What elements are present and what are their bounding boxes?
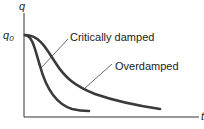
critical-leader-line [41,39,68,68]
over-leader-line [85,64,112,88]
overdamped-label: Overdamped [115,60,179,72]
damping-chart: q q0 t Critically damped Overdamped [0,0,204,129]
critically-damped-curve [25,35,89,111]
y-axis-label: q [19,0,26,12]
x-axis-label: t [201,110,204,122]
y-tick-q0: q0 [3,29,14,43]
overdamped-curve [25,35,160,109]
critically-damped-label: Critically damped [70,31,154,43]
